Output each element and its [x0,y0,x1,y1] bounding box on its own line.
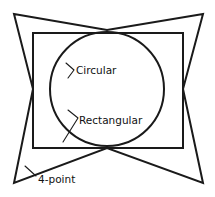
four-point-label: 4-point [38,173,75,185]
circular-leader-line [66,63,74,78]
rectangular-label: Rectangular [79,114,143,126]
diagram-canvas: Circular Rectangular 4-point [0,0,215,197]
four-point-star-shape [14,14,203,183]
figure-container: Circular Rectangular 4-point [0,0,215,197]
circle-shape [50,32,164,146]
four-point-leader-line [25,166,36,176]
rectangle-shape [33,33,183,148]
circular-label: Circular [76,64,117,76]
